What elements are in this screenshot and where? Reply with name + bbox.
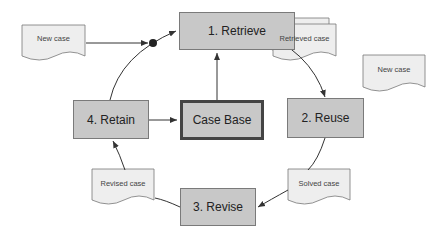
retrieve-node: 1. Retrieve: [179, 12, 295, 50]
retain-node: 4. Retain: [73, 100, 149, 139]
case-base-node: Case Base: [180, 100, 264, 140]
junction-dot: [149, 39, 157, 47]
reuse-node: 2. Reuse: [287, 98, 364, 138]
new-case-copy-label: New case: [363, 65, 425, 74]
revised-case-label: Revised case: [92, 179, 154, 188]
new-case-label: New case: [22, 34, 85, 43]
solved-case-label: Solved case: [288, 179, 350, 188]
revise-node: 3. Revise: [180, 188, 256, 226]
retrieved-case-label: Retrieved case: [273, 34, 336, 43]
